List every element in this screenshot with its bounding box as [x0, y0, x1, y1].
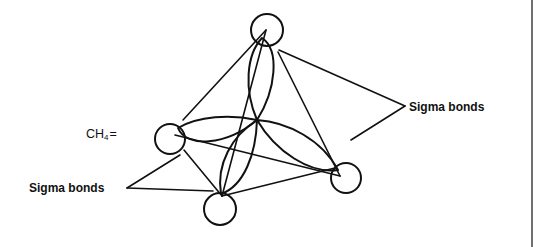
hydrogen-atom-left: [155, 124, 185, 154]
sigma-bonds-label-right: Sigma bonds: [409, 101, 484, 113]
orbital-lobe-right: [257, 120, 338, 170]
hydrogen-atom-bottom: [204, 193, 236, 225]
formula-equals: =: [110, 127, 117, 141]
formula-subscript: 4: [104, 133, 108, 142]
methane-diagram: [0, 0, 538, 247]
sigma-bonds-label-left: Sigma bonds: [29, 182, 104, 194]
methane-formula: CH4=: [86, 128, 117, 142]
tetrahedron-edges: [175, 30, 340, 196]
formula-prefix: CH: [86, 127, 104, 141]
